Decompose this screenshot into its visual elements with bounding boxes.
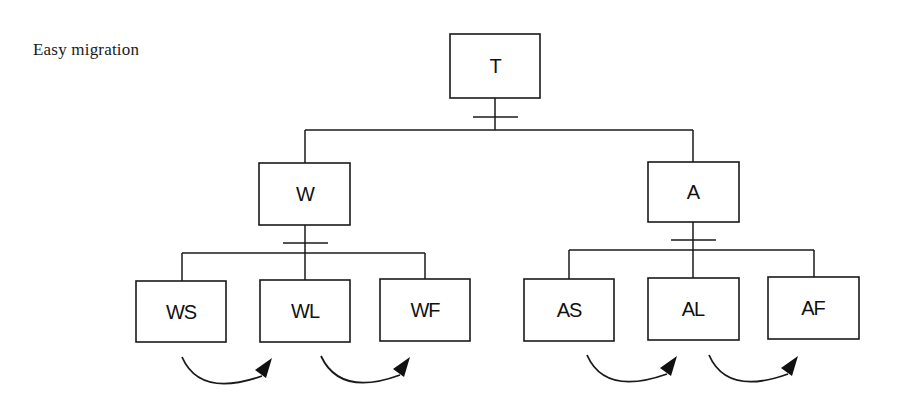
- node-al[interactable]: AL: [648, 278, 739, 340]
- node-wf[interactable]: WF: [380, 279, 470, 341]
- root-connector: [305, 98, 693, 163]
- w-connector: [182, 225, 425, 281]
- node-label: T: [489, 55, 501, 77]
- node-label: W: [296, 183, 315, 205]
- arrowhead-icon: [781, 356, 798, 376]
- node-label: AF: [801, 297, 825, 319]
- node-a[interactable]: A: [648, 162, 739, 222]
- node-wl[interactable]: WL: [260, 280, 350, 342]
- node-label: A: [687, 181, 701, 203]
- node-label: WL: [291, 300, 320, 322]
- node-label: AS: [557, 299, 582, 321]
- node-ws[interactable]: WS: [136, 281, 226, 342]
- node-af[interactable]: AF: [768, 277, 859, 339]
- node-label: AL: [682, 298, 705, 320]
- arrowhead-icon: [660, 356, 677, 376]
- migration-arrow-as-al: [587, 355, 677, 382]
- node-label: WF: [410, 299, 440, 321]
- node-as[interactable]: AS: [524, 279, 614, 341]
- a-connector: [569, 222, 814, 279]
- migration-arrow-ws-wl: [182, 357, 272, 384]
- node-t[interactable]: T: [450, 34, 540, 98]
- arrowhead-icon: [393, 357, 410, 377]
- node-label: WS: [166, 301, 197, 323]
- node-w[interactable]: W: [259, 163, 350, 225]
- migration-arrow-al-af: [709, 355, 798, 382]
- migration-arrow-wl-wf: [321, 356, 410, 383]
- hierarchy-diagram: T W A WS WL WF AS AL AF: [0, 0, 898, 414]
- arrowhead-icon: [255, 358, 272, 378]
